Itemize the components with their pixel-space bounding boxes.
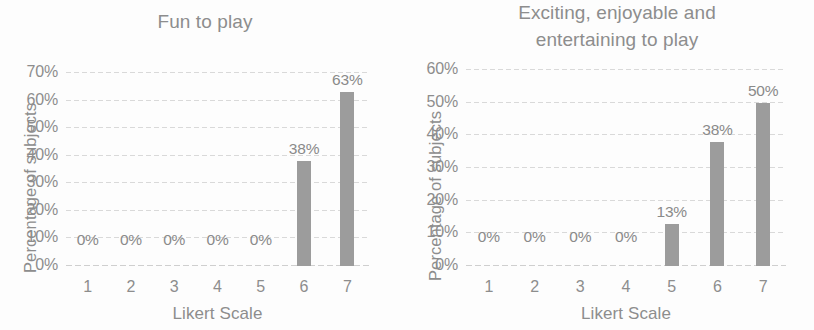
- bar-value-label: 0%: [77, 231, 99, 249]
- x-tick-label: 4: [603, 278, 649, 296]
- bar-slot: 0%: [603, 70, 649, 266]
- bar-slot: 0%: [512, 70, 558, 266]
- bar-slot: 63%: [326, 73, 369, 266]
- chart-panel-fun-to-play: Fun to play Percentage of subjects 0%10%…: [0, 0, 407, 330]
- bar[interactable]: [340, 92, 354, 266]
- x-tick-label: 4: [196, 278, 239, 296]
- bar-slot: 50%: [740, 70, 786, 266]
- bar-value-label: 50%: [748, 82, 778, 100]
- bar-value-label: 0%: [524, 228, 546, 246]
- y-tick-label: 40%: [427, 125, 458, 143]
- y-tick-label: 20%: [27, 200, 58, 218]
- bar-value-label: 0%: [206, 231, 228, 249]
- x-tick-label: 7: [740, 278, 786, 296]
- y-tick-label: 50%: [427, 92, 458, 110]
- bar-value-label: 63%: [332, 71, 362, 89]
- bar-slot: 0%: [196, 73, 239, 266]
- x-tick-label: 7: [326, 278, 369, 296]
- x-axis-title: Likert Scale: [466, 304, 786, 324]
- chart-title: Fun to play: [40, 8, 370, 35]
- plot-area: 0%10%20%30%40%50%60%70% 0%0%0%0%0%38%63%…: [66, 73, 369, 266]
- y-tick-label: 60%: [427, 60, 458, 78]
- y-tick-label: 30%: [427, 158, 458, 176]
- bar-value-label: 0%: [120, 231, 142, 249]
- bar[interactable]: [665, 224, 679, 266]
- bar-series: 0%0%0%0%0%38%63%: [66, 73, 369, 266]
- bar-value-label: 38%: [289, 140, 319, 158]
- bar-slot: 0%: [466, 70, 512, 266]
- y-tick-label: 70%: [27, 63, 58, 81]
- bar-slot: 0%: [557, 70, 603, 266]
- bar-value-label: 0%: [615, 228, 637, 246]
- x-tick-label: 3: [153, 278, 196, 296]
- chart-title: Exciting, enjoyable and entertaining to …: [442, 0, 792, 53]
- bar-slot: 38%: [695, 70, 741, 266]
- x-tick-label: 3: [557, 278, 603, 296]
- y-tick-label: 40%: [27, 145, 58, 163]
- bar-slot: 0%: [109, 73, 152, 266]
- y-tick-label: 10%: [27, 228, 58, 246]
- x-tick-label: 5: [649, 278, 695, 296]
- y-tick-label: 20%: [427, 190, 458, 208]
- bar-value-label: 0%: [569, 228, 591, 246]
- bar-slot: 0%: [239, 73, 282, 266]
- x-tick-label: 6: [695, 278, 741, 296]
- bar-value-label: 0%: [250, 231, 272, 249]
- y-tick-label: 10%: [427, 223, 458, 241]
- bar[interactable]: [710, 142, 724, 266]
- bar-value-label: 0%: [478, 228, 500, 246]
- y-tick-label: 50%: [27, 118, 58, 136]
- x-axis-ticks: 1234567: [66, 278, 369, 296]
- y-tick-label: 0%: [35, 256, 58, 274]
- x-tick-label: 6: [282, 278, 325, 296]
- y-tick-label: 0%: [435, 256, 458, 274]
- bar[interactable]: [756, 103, 770, 266]
- y-tick-label: 30%: [27, 173, 58, 191]
- bar-value-label: 13%: [657, 203, 687, 221]
- chart-panel-exciting-enjoyable: Exciting, enjoyable and entertaining to …: [407, 0, 814, 330]
- x-tick-label: 2: [109, 278, 152, 296]
- bar-value-label: 0%: [163, 231, 185, 249]
- plot-area: 0%10%20%30%40%50%60% 0%0%0%0%13%38%50% 1…: [466, 70, 786, 266]
- bar-slot: 38%: [282, 73, 325, 266]
- bar[interactable]: [297, 161, 311, 266]
- x-tick-label: 1: [66, 278, 109, 296]
- bar-series: 0%0%0%0%13%38%50%: [466, 70, 786, 266]
- bar-value-label: 38%: [702, 121, 732, 139]
- x-tick-label: 5: [239, 278, 282, 296]
- bar-slot: 13%: [649, 70, 695, 266]
- x-axis-ticks: 1234567: [466, 278, 786, 296]
- y-tick-label: 60%: [27, 90, 58, 108]
- bar-slot: 0%: [66, 73, 109, 266]
- x-axis-title: Likert Scale: [66, 304, 369, 324]
- x-tick-label: 1: [466, 278, 512, 296]
- bar-slot: 0%: [153, 73, 196, 266]
- figure-container: Fun to play Percentage of subjects 0%10%…: [0, 0, 814, 330]
- x-tick-label: 2: [512, 278, 558, 296]
